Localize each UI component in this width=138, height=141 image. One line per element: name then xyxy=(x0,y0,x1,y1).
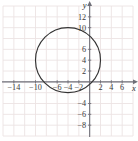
x-tick-label: −14 xyxy=(7,83,20,92)
x-tick-label: 4 xyxy=(109,83,113,92)
y-tick-label: 10 xyxy=(78,24,86,33)
graph-figure: −14−10−6−4−2246 1210642−4−6−8 x y xyxy=(0,0,138,141)
x-tick-label: −6 xyxy=(53,83,62,92)
y-tick-label: −4 xyxy=(77,99,86,108)
y-tick-label: −8 xyxy=(77,121,86,130)
x-tick-label: 2 xyxy=(98,83,102,92)
y-tick-label: 12 xyxy=(78,13,86,22)
x-axis-label: x xyxy=(131,83,136,93)
coordinate-plane: −14−10−6−4−2246 1210642−4−6−8 x y xyxy=(0,0,138,141)
x-tick-label: −4 xyxy=(64,83,73,92)
y-tick-label: 2 xyxy=(82,67,86,76)
y-tick-label: −6 xyxy=(77,110,86,119)
y-tick-label: 6 xyxy=(82,45,86,54)
y-axis-label: y xyxy=(82,0,87,10)
y-tick-label: 4 xyxy=(82,56,86,65)
x-tick-label: −10 xyxy=(29,83,42,92)
x-tick-label: −2 xyxy=(74,83,83,92)
x-tick-label: 6 xyxy=(120,83,124,92)
figure-background xyxy=(0,0,138,141)
